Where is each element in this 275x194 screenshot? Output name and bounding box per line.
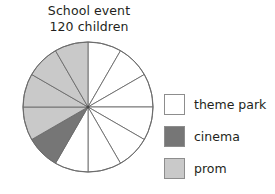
pie-chart-svg — [22, 41, 154, 173]
legend-item: cinema — [164, 125, 266, 147]
legend-item: theme park — [164, 93, 266, 115]
legend-label-cinema: cinema — [194, 129, 240, 144]
pie-chart — [22, 41, 154, 173]
legend: theme park cinema prom — [164, 93, 266, 179]
chart-title: School event 120 children — [0, 3, 178, 35]
legend-label-theme-park: theme park — [194, 97, 266, 112]
chart-title-line-1: School event — [0, 3, 178, 19]
legend-item: prom — [164, 157, 266, 179]
legend-swatch-cinema — [164, 126, 185, 147]
pie-center-point — [86, 105, 89, 108]
legend-swatch-prom — [164, 158, 185, 179]
legend-swatch-theme-park — [164, 94, 185, 115]
chart-title-line-2: 120 children — [0, 19, 178, 35]
pie-chart-figure: School event 120 children theme park cin… — [0, 0, 275, 194]
legend-label-prom: prom — [194, 161, 227, 176]
